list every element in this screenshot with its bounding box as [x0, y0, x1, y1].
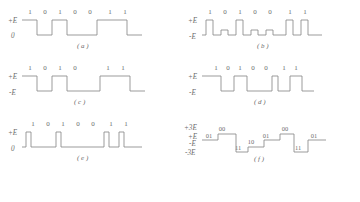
panel-a-waveform	[22, 20, 142, 35]
panel-b-bit-2: 1	[238, 8, 242, 16]
panel-b-caption: ( b )	[257, 42, 269, 50]
panel-d-bit-0: 1	[214, 64, 218, 72]
panel-f-caption: ( f )	[254, 155, 264, 163]
panel-a-bit-0: 1	[28, 8, 32, 16]
panel-e-bit-0: 1	[31, 120, 35, 128]
panel-e-bit-5: 1	[109, 120, 113, 128]
panel-b-bit-3: 0	[253, 8, 257, 16]
panel-e-waveform	[22, 132, 142, 147]
panel-d-plot: +E -E 1 0 1 0 0 1 1	[180, 58, 360, 110]
panel-f-dibit-0: 01	[206, 132, 212, 139]
panel-d: +E -E 1 0 1 0 0 1 1 ( d )	[180, 58, 360, 110]
panel-d-caption: ( d )	[254, 98, 266, 106]
panel-c: +E -E 1 0 1 0 1 1 ( c )	[0, 58, 180, 110]
panel-b-bit-1: 0	[223, 8, 227, 16]
panel-b-plot: +E -E 1 0 1 0 0 1 1	[180, 2, 360, 54]
panel-a-plot: +E 0 1 0 1 0 0 1 1	[0, 2, 180, 54]
panel-c-bit-0: 1	[28, 64, 32, 72]
panel-f-level-minuse: -E	[189, 140, 196, 148]
panel-a: +E 0 1 0 1 0 0 1 1 ( a )	[0, 2, 180, 54]
panel-a-bit-1: 0	[43, 8, 47, 16]
panel-d-waveform	[202, 76, 314, 91]
panel-c-bit-5: 1	[121, 64, 125, 72]
panel-f-dibit-3: 10	[248, 138, 254, 145]
panel-e-level-low: 0	[11, 145, 15, 153]
panel-f: +3E +E -E -3E 01 00 11 10 01 00 11 01 ( …	[180, 114, 360, 166]
panel-f-dibit-7: 01	[311, 132, 317, 139]
panel-a-bit-5: 1	[108, 8, 112, 16]
panel-d-bit-6: 1	[294, 64, 298, 72]
panel-a-bit-4: 0	[88, 8, 92, 16]
panel-b-level-low: -E	[189, 33, 196, 41]
panel-a-caption: ( a )	[77, 42, 89, 50]
panel-c-caption: ( c )	[74, 98, 85, 106]
panel-b: +E -E 1 0 1 0 0 1 1 ( b )	[180, 2, 360, 54]
panel-e-bit-1: 0	[46, 120, 50, 128]
panel-e: +E 0 1 0 1 0 0 1 1 ( e )	[0, 114, 180, 166]
panel-f-plot: +3E +E -E -3E 01 00 11 10 01 00 11 01	[180, 114, 360, 166]
panel-b-bit-4: 0	[268, 8, 272, 16]
panel-c-bit-4: 1	[106, 64, 110, 72]
panel-f-dibit-6: 11	[295, 144, 301, 151]
panel-f-dibit-1: 00	[219, 125, 225, 132]
panel-c-bit-3: 0	[73, 64, 77, 72]
panel-c-level-high: +E	[8, 73, 18, 81]
panel-d-level-low: -E	[189, 89, 196, 97]
panel-f-dibit-5: 00	[282, 125, 288, 132]
panel-f-level-plus3e: +3E	[184, 124, 197, 132]
panel-d-bit-5: 1	[282, 64, 286, 72]
panel-e-bit-4: 0	[91, 120, 95, 128]
panel-d-level-high: +E	[188, 73, 198, 81]
panel-c-level-low: -E	[9, 89, 16, 97]
panel-a-level-high: +E	[8, 17, 18, 25]
panel-c-plot: +E -E 1 0 1 0 1 1	[0, 58, 180, 110]
panel-e-plot: +E 0 1 0 1 0 0 1 1	[0, 114, 180, 166]
panel-c-bit-1: 0	[43, 64, 47, 72]
panel-f-level-minus3e: -3E	[185, 149, 196, 157]
panel-b-level-high: +E	[188, 17, 198, 25]
panel-c-waveform	[22, 76, 145, 91]
panel-e-level-high: +E	[8, 129, 18, 137]
panel-c-bit-2: 1	[58, 64, 62, 72]
panel-e-caption: ( e )	[77, 154, 88, 162]
panel-a-bit-2: 1	[58, 8, 62, 16]
panel-e-bit-3: 0	[76, 120, 80, 128]
line-coding-figure: +E 0 1 0 1 0 0 1 1 ( a ) +E -E 1 0 1 0 0…	[0, 0, 360, 202]
panel-d-bit-2: 1	[238, 64, 242, 72]
panel-d-bit-3: 0	[251, 64, 255, 72]
panel-a-bit-3: 0	[73, 8, 77, 16]
panel-f-dibit-4: 01	[263, 132, 269, 139]
panel-b-bit-5: 1	[288, 8, 292, 16]
panel-b-bit-0: 1	[208, 8, 212, 16]
panel-e-bit-2: 1	[61, 120, 65, 128]
panel-d-bit-4: 0	[264, 64, 268, 72]
panel-e-bit-6: 1	[124, 120, 128, 128]
panel-b-bit-6: 1	[303, 8, 307, 16]
panel-a-bit-6: 1	[123, 8, 127, 16]
panel-a-level-low: 0	[11, 32, 15, 40]
panel-d-bit-1: 0	[226, 64, 230, 72]
panel-b-waveform	[202, 20, 322, 35]
